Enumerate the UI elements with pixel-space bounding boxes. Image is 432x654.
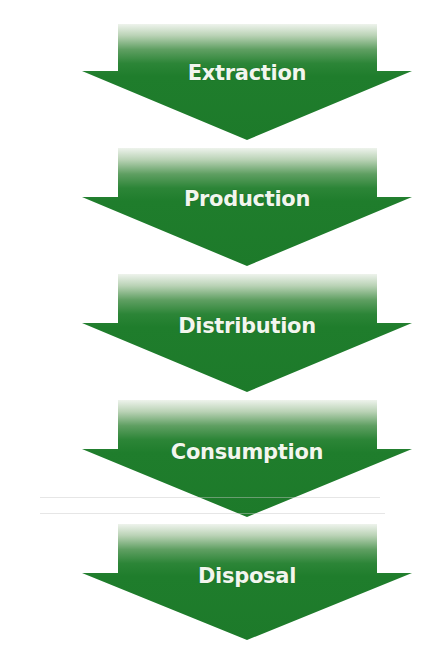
materials-lifecycle-diagram: Extraction Production Distribution Consu… <box>0 0 432 654</box>
scan-artifact-line <box>40 513 385 514</box>
step-label: Production <box>82 186 412 212</box>
step-label: Extraction <box>82 60 412 86</box>
scan-artifact-line <box>40 497 380 498</box>
step-label: Distribution <box>82 313 412 339</box>
step-consumption: Consumption <box>82 400 412 518</box>
step-label: Consumption <box>82 439 412 465</box>
step-production: Production <box>82 148 412 266</box>
step-extraction: Extraction <box>82 24 412 142</box>
step-label: Disposal <box>82 563 412 589</box>
step-disposal: Disposal <box>82 524 412 642</box>
step-distribution: Distribution <box>82 274 412 392</box>
